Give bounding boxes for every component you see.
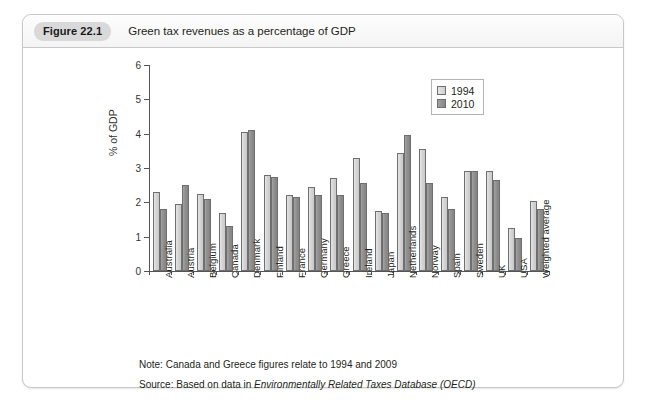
x-tick-mark: [149, 271, 150, 275]
bar-1994: [264, 175, 271, 271]
bar-1994: [197, 194, 204, 271]
bar-1994: [153, 192, 160, 271]
figure-header: Figure 22.1 Green tax revenues as a perc…: [23, 15, 623, 48]
legend-label-2010: 2010: [451, 98, 474, 110]
legend-swatch-1994: [437, 86, 446, 95]
note-line: Note: Canada and Greece figures relate t…: [139, 359, 475, 370]
bar-1994: [530, 201, 537, 271]
y-tick-label: 2: [135, 197, 141, 208]
bar-group: [262, 65, 284, 271]
bar-1994: [308, 187, 315, 271]
x-category-label: Canada: [229, 244, 240, 278]
chart-area: % of GDP 0123456 AustraliaAustriaBelgium…: [23, 48, 623, 387]
bar-1994: [441, 197, 448, 271]
bar-group: [328, 65, 350, 271]
bar-1994: [286, 195, 293, 271]
legend-swatch-2010: [437, 99, 446, 108]
bar-group: [284, 65, 306, 271]
x-category-label: Denmark: [251, 239, 262, 278]
bar-2010: [493, 180, 500, 271]
x-category-label: UK: [496, 265, 507, 278]
x-category-label: Sweden: [474, 243, 485, 278]
source-prefix: Source: Based on data in: [139, 379, 254, 390]
bar-1994: [508, 228, 515, 271]
y-tick-label: 5: [135, 94, 141, 105]
x-category-label: USA: [518, 258, 529, 278]
bars-layer: [149, 65, 549, 271]
x-category-label: Netherlands: [407, 226, 418, 278]
bar-group: [506, 65, 528, 271]
legend-item-1994: 1994: [437, 84, 474, 97]
bar-1994: [219, 213, 226, 271]
x-category-label: Norway: [429, 245, 440, 278]
figure-card: Figure 22.1 Green tax revenues as a perc…: [22, 14, 624, 388]
y-tick-label: 0: [135, 266, 141, 277]
x-category-label: Finland: [274, 246, 285, 278]
chart-legend: 1994 2010: [431, 79, 484, 115]
bar-group: [373, 65, 395, 271]
figure-number-badge: Figure 22.1: [34, 22, 111, 41]
bar-1994: [397, 153, 404, 271]
bar-group: [351, 65, 373, 271]
y-tick-label: 1: [135, 231, 141, 242]
x-category-label: France: [296, 248, 307, 278]
x-category-label: Austria: [185, 248, 196, 278]
bar-1994: [241, 132, 248, 271]
bar-1994: [464, 171, 471, 271]
source-line: Source: Based on data in Environmentally…: [139, 379, 475, 390]
x-category-label: Germany: [318, 238, 329, 278]
figure-notes: Note: Canada and Greece figures relate t…: [139, 359, 475, 390]
y-tick-label: 3: [135, 163, 141, 174]
bar-group: [195, 65, 217, 271]
x-category-label: Belgium: [207, 243, 218, 278]
x-category-label: Japan: [385, 252, 396, 278]
source-title: Environmentally Related Taxes Database (…: [254, 379, 475, 390]
legend-label-1994: 1994: [451, 85, 474, 97]
y-tick-label: 6: [135, 60, 141, 71]
plot-region: 0123456 AustraliaAustriaBelgiumCanadaDen…: [149, 65, 549, 271]
bar-1994: [486, 171, 493, 271]
bar-group: [484, 65, 506, 271]
x-category-label: Australia: [163, 240, 174, 278]
figure-caption: Green tax revenues as a percentage of GD…: [128, 25, 356, 37]
bar-1994: [330, 178, 337, 271]
bar-group: [217, 65, 239, 271]
bar-1994: [375, 211, 382, 271]
bar-1994: [419, 149, 426, 271]
x-category-label: Greece: [340, 246, 351, 278]
bar-1994: [175, 204, 182, 271]
legend-item-2010: 2010: [437, 97, 474, 110]
x-category-label: Weighted average: [540, 199, 551, 278]
y-axis-title: % of GDP: [107, 109, 119, 156]
bar-1994: [353, 158, 360, 271]
bar-group: [173, 65, 195, 271]
x-category-label: Spain: [451, 253, 462, 278]
y-tick-label: 4: [135, 128, 141, 139]
x-category-label: Ireland: [363, 248, 374, 278]
